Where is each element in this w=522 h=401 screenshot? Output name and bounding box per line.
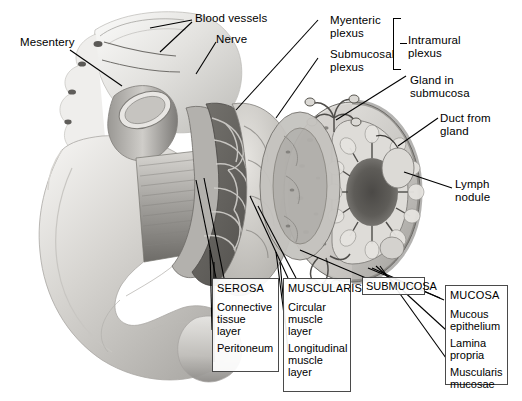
serosa-heading: SEROSA: [213, 279, 278, 296]
serosa-item-connective-tissue-layer: Connective tissue layer: [213, 301, 278, 337]
callout-mesentery: Mesentery: [20, 36, 75, 49]
mucosa-item-lamina-propria: Lamina propria: [446, 337, 507, 361]
callout-intramural-plexus: Intramural plexus: [408, 34, 461, 59]
muscularis-item-longitudinal-muscle-layer: Longitudinal muscle layer: [284, 342, 350, 378]
mucosa-item-muscularis-mucosae: Muscularis mucosae: [446, 366, 507, 390]
callout-gland-in-submucosa: Gland in submucosa: [410, 74, 470, 99]
mucosa-heading: MUCOSA: [446, 286, 507, 303]
callout-lymph-nodule: Lymph nodule: [455, 178, 490, 203]
mid-section-disc: [260, 112, 340, 260]
layer-box-mucosa: MUCOSA Mucous epithelium Lamina propria …: [445, 285, 508, 385]
callout-myenteric-plexus: Myenteric plexus: [330, 14, 381, 39]
callout-duct-from-gland: Duct from gland: [440, 112, 491, 137]
layer-box-muscularis: MUSCULARIS Circular muscle layer Longitu…: [283, 278, 351, 392]
serosa-item-peritoneum: Peritoneum: [213, 342, 278, 354]
callout-blood-vessels: Blood vessels: [195, 12, 267, 25]
layer-box-serosa: SEROSA Connective tissue layer Peritoneu…: [212, 278, 279, 372]
callout-submucosal-plexus: Submucosal plexus: [330, 48, 394, 73]
muscularis-heading: MUSCULARIS: [284, 279, 350, 296]
figure-canvas: Mesentery Blood vessels Nerve Myenteric …: [0, 0, 522, 401]
lymph-nodule-shape: [382, 148, 414, 188]
layer-box-submucosa: SUBMUCOSA: [362, 277, 425, 295]
muscularis-item-circular-muscle-layer: Circular muscle layer: [284, 301, 350, 337]
intramural-plexus-bracket-stem: [400, 43, 407, 44]
intramural-plexus-bracket: [393, 18, 401, 70]
mucosa-item-mucous-epithelium: Mucous epithelium: [446, 308, 507, 332]
callout-nerve: Nerve: [216, 33, 247, 46]
